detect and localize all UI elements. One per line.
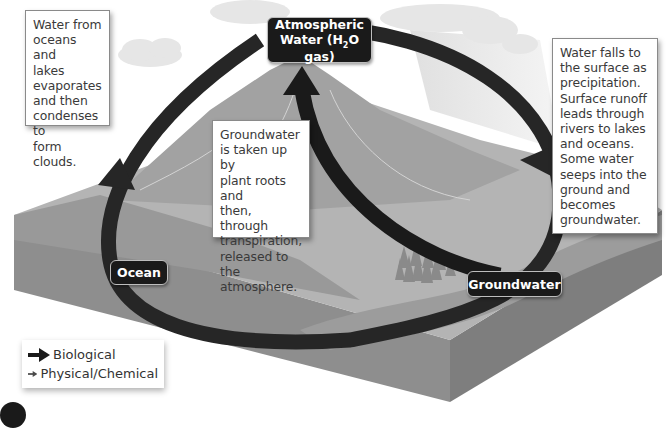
corner-badge	[0, 402, 26, 428]
subscript-2: 2	[343, 41, 349, 50]
atmospheric-line1: Atmospheric	[275, 17, 364, 32]
arrow-right-icon	[28, 348, 50, 362]
legend-item-physical: Physical/Chemical	[28, 364, 158, 383]
ocean-node: Ocean	[110, 260, 168, 285]
atmospheric-water-node: Atmospheric Water (H2O gas)	[267, 17, 372, 63]
legend-label-biological: Biological	[53, 347, 116, 362]
atmospheric-line2: Water (H2O gas)	[268, 32, 371, 64]
legend-label-physical: Physical/Chemical	[40, 366, 158, 381]
transpiration-callout: Groundwater is taken up by plant roots a…	[212, 120, 310, 238]
atmospheric-line2-pre: Water (H	[280, 32, 343, 47]
ocean-label: Ocean	[117, 265, 161, 280]
evaporation-text: Water from oceans and lakes evaporates a…	[33, 17, 102, 169]
evaporation-callout: Water from oceans and lakes evaporates a…	[25, 10, 110, 126]
precipitation-text: Water falls to the surface as precipitat…	[560, 45, 650, 227]
transpiration-text: Groundwater is taken up by plant roots a…	[220, 127, 302, 294]
precipitation-callout: Water falls to the surface as precipitat…	[552, 38, 658, 234]
arrow-right-icon	[28, 367, 37, 381]
groundwater-label: Groundwater	[468, 277, 560, 292]
groundwater-node: Groundwater	[467, 271, 562, 297]
legend: Biological Physical/Chemical	[22, 340, 164, 388]
legend-item-biological: Biological	[28, 345, 158, 364]
